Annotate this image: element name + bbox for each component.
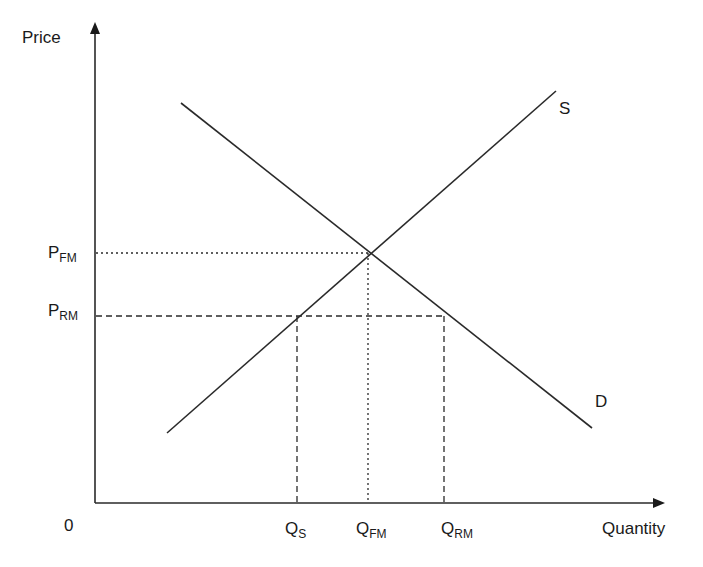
origin-label: 0 [64,517,73,534]
q-rm-label: QRM [441,520,473,537]
q-s-label: QS [285,520,306,537]
q-fm-label-main: Q [356,519,369,538]
p-rm-label-main: P [48,301,59,320]
supply-curve [167,91,556,433]
p-rm-label-sub: RM [59,309,78,323]
q-s-label-main: Q [285,519,298,538]
demand-curve [181,103,592,428]
q-rm-label-sub: RM [454,527,473,541]
supply-demand-diagram [0,0,703,567]
q-fm-label: QFM [356,520,387,537]
y-axis-arrow-icon [90,22,100,34]
p-fm-label-sub: FM [59,251,76,265]
q-s-label-sub: S [298,527,306,541]
p-fm-label-main: P [48,243,59,262]
p-fm-label: PFM [48,244,77,261]
x-axis-arrow-icon [653,498,665,508]
y-axis-label: Price [22,29,61,46]
q-fm-label-sub: FM [369,527,386,541]
supply-label: S [559,100,570,117]
x-axis-label: Quantity [602,520,665,537]
p-rm-label: PRM [48,302,78,319]
demand-label: D [595,393,607,410]
q-rm-label-main: Q [441,519,454,538]
